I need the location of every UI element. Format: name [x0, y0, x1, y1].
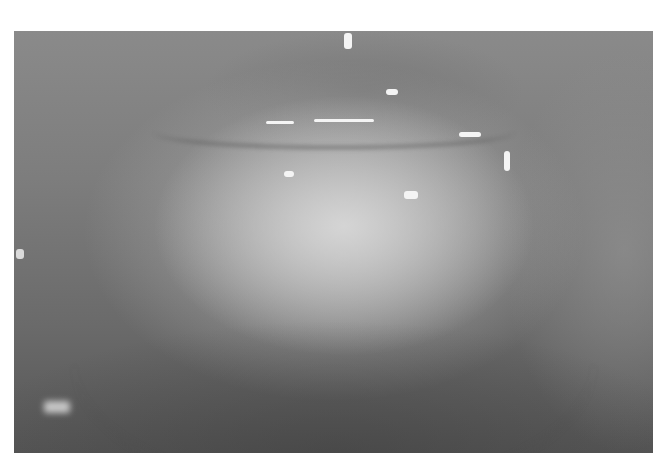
highlight [459, 132, 481, 137]
highlight [344, 33, 352, 49]
highlight [386, 89, 398, 95]
clinical-photo [14, 31, 653, 453]
highlight [16, 249, 24, 259]
highlight [404, 191, 418, 199]
highlight [44, 401, 70, 413]
highlight [504, 151, 510, 171]
highlight [266, 121, 294, 124]
highlight [284, 171, 294, 177]
chin-contour [74, 231, 594, 453]
highlight [314, 119, 374, 122]
